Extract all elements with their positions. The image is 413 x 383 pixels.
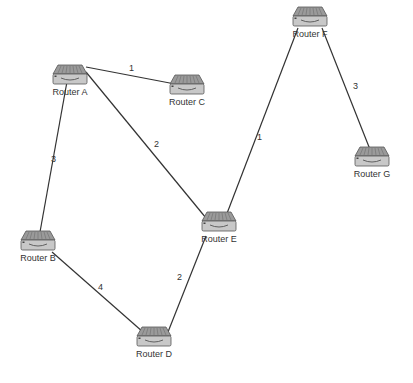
router-label: Router F [280, 29, 340, 39]
link-weight-a-c: 1 [129, 63, 134, 73]
link-weight-a-e: 2 [154, 139, 159, 149]
link-e-f [226, 28, 298, 216]
router-icon [20, 230, 56, 252]
router-e[interactable]: Router E [189, 211, 249, 251]
router-label: Router C [157, 97, 217, 107]
router-label: Router E [189, 234, 249, 244]
router-c[interactable]: Router C [157, 74, 217, 114]
router-icon [136, 326, 172, 348]
router-label: Router B [8, 253, 68, 263]
router-icon [52, 64, 88, 86]
link-weight-b-d: 4 [98, 282, 103, 292]
router-icon [354, 146, 390, 168]
router-label: Router G [342, 169, 402, 179]
link-f-g [322, 28, 371, 152]
router-icon [292, 6, 328, 28]
link-weight-e-f: 1 [257, 132, 262, 142]
router-label: Router D [124, 349, 184, 359]
link-weight-a-b: 3 [51, 154, 56, 164]
router-b[interactable]: Router B [8, 230, 68, 270]
router-f[interactable]: Router F [280, 6, 340, 46]
network-diagram: 1324213 Router ARouter BRouter CRouter D… [0, 0, 413, 383]
router-label: Router A [40, 87, 100, 97]
link-weight-f-g: 3 [353, 81, 358, 91]
router-icon [201, 211, 237, 233]
edges-layer [0, 0, 413, 383]
router-a[interactable]: Router A [40, 64, 100, 104]
link-weight-e-d: 2 [177, 272, 182, 282]
router-d[interactable]: Router D [124, 326, 184, 366]
router-g[interactable]: Router G [342, 146, 402, 186]
router-icon [169, 74, 205, 96]
